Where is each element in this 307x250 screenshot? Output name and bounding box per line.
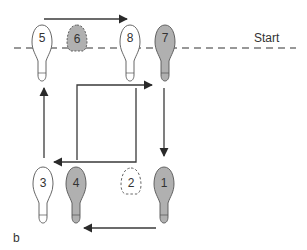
step-1-shoe: 1 xyxy=(154,167,174,223)
step-6-shoe: 6 xyxy=(67,25,87,51)
step-8-shoe: 8 xyxy=(120,25,140,81)
step-5-number: 5 xyxy=(39,31,46,45)
step-4-shoe: 4 xyxy=(66,167,86,223)
start-label: Start xyxy=(254,31,280,45)
step-5-shoe: 5 xyxy=(32,25,52,81)
box-path-bottom xyxy=(54,88,136,162)
step-7-number: 7 xyxy=(162,31,169,45)
panel-label: b xyxy=(13,231,20,245)
step-4-number: 4 xyxy=(73,176,80,190)
step-3-shoe: 3 xyxy=(33,167,53,223)
step-2-shoe: 2 xyxy=(121,168,141,194)
step-8-number: 8 xyxy=(127,31,134,45)
step-3-number: 3 xyxy=(40,176,47,190)
step-2-number: 2 xyxy=(128,176,135,190)
step-7-shoe: 7 xyxy=(155,25,175,81)
step-1-number: 1 xyxy=(161,176,168,190)
box-path-top xyxy=(77,85,152,160)
dance-step-diagram: Start 5 6 8 7 3 4 xyxy=(0,0,307,250)
step-6-number: 6 xyxy=(74,32,81,46)
